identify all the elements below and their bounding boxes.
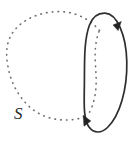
geometry-figure: Circle S intersecting an oriented closed… bbox=[0, 0, 135, 143]
figure-canvas: Circle S intersecting an oriented closed… bbox=[0, 0, 135, 143]
oriented-ellipse-group bbox=[83, 13, 127, 132]
curve-label-s: S bbox=[14, 104, 23, 123]
circle-s-hidden-back-arc bbox=[88, 32, 99, 115]
oriented-ellipse-outline bbox=[84, 13, 127, 132]
